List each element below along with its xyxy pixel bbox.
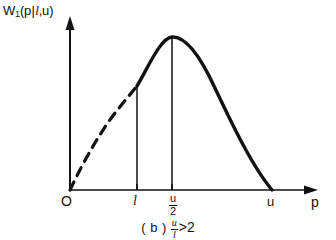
y-axis-label-close: ) bbox=[49, 3, 53, 18]
caption-value: 2 bbox=[187, 219, 195, 235]
fraction-denominator: 2 bbox=[169, 205, 177, 218]
caption-fraction-u-over-l: u l bbox=[171, 218, 178, 239]
y-axis-arrowhead bbox=[66, 16, 75, 30]
fraction-numerator: u bbox=[169, 193, 177, 205]
y-axis-label-open: (p bbox=[20, 3, 31, 18]
x-axis-label: p bbox=[311, 195, 319, 209]
y-axis-label-w: W bbox=[3, 3, 15, 18]
y-axis-label: W1(p|l,u) bbox=[3, 4, 53, 19]
caption-fraction-denominator: l bbox=[171, 229, 178, 240]
x-tick-label-origin: O bbox=[61, 194, 72, 208]
caption-index: ( b ) bbox=[141, 220, 167, 235]
caption-relation: > bbox=[179, 219, 187, 235]
x-tick-label-l: l bbox=[133, 194, 137, 208]
caption-fraction-numerator: u bbox=[171, 218, 178, 229]
curve-dashed-branch bbox=[70, 86, 137, 190]
x-tick-label-u: u bbox=[267, 195, 274, 208]
figure-container: W1(p|l,u) O l u 2 u p ( b ) u l >2 bbox=[0, 0, 336, 239]
figure-caption: ( b ) u l >2 bbox=[0, 218, 336, 239]
x-tick-label-u-half: u 2 bbox=[163, 193, 183, 217]
x-axis bbox=[70, 186, 318, 195]
y-axis bbox=[66, 16, 75, 190]
y-axis-label-comma-u: ,u bbox=[39, 3, 49, 18]
fraction-u-over-2: u 2 bbox=[169, 193, 177, 217]
curve-solid-branch bbox=[137, 37, 272, 190]
